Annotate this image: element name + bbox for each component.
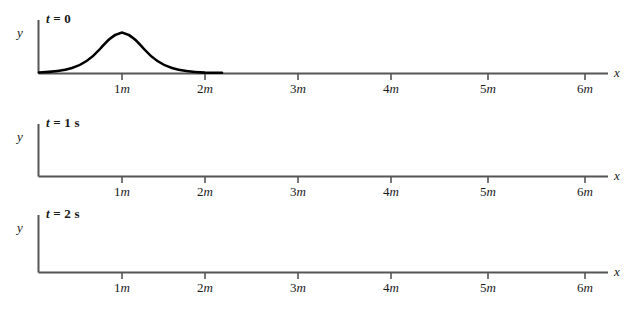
chart-panel-t0: t = 0 y x 1m 2m 3m 4m 5m 6m: [0, 0, 629, 100]
tick-unit: m: [487, 81, 496, 96]
panel-t2-x-axis-label: x: [614, 265, 620, 278]
tick-unit: m: [204, 81, 213, 96]
panel-t0-tick-3m: 3m: [290, 82, 306, 95]
panel-t0-tick-1m: 1m: [114, 82, 130, 95]
chart-panel-t1: t = 1 s y x 1m 2m 3m 4m 5m 6m: [0, 100, 629, 200]
panel-t2-tick-3m: 3m: [290, 281, 306, 294]
panel-t0-time-value: = 0: [50, 11, 71, 26]
panel-t0-tick-6m: 6m: [577, 82, 593, 95]
panel-t2-tick-4m: 4m: [383, 281, 399, 294]
panel-t1-plot: [0, 100, 629, 200]
panel-t2-tick-6m: 6m: [577, 281, 593, 294]
panel-t0-plot: [0, 0, 629, 100]
panel-t1-time-label: t = 1 s: [46, 116, 80, 129]
wave-pulse-curve: [39, 33, 222, 73]
panel-t1-x-axis-label: x: [614, 169, 620, 182]
panel-t2-time-value: = 2 s: [50, 206, 80, 221]
panel-t1-y-axis-label: y: [17, 130, 23, 143]
tick-unit: m: [584, 280, 593, 295]
panel-t0-time-label: t = 0: [46, 12, 71, 25]
panel-t2-time-label: t = 2 s: [46, 207, 80, 220]
tick-unit: m: [297, 280, 306, 295]
tick-unit: m: [487, 280, 496, 295]
panel-t0-tick-4m: 4m: [383, 82, 399, 95]
panel-t2-plot: [0, 196, 629, 310]
panel-t1-time-value: = 1 s: [50, 115, 80, 130]
panel-t0-tick-2m: 2m: [197, 82, 213, 95]
panel-t0-y-axis-label: y: [17, 26, 23, 39]
tick-unit: m: [121, 280, 130, 295]
tick-unit: m: [297, 81, 306, 96]
panel-t0-x-axis-label: x: [614, 66, 620, 79]
panel-t2-tick-2m: 2m: [197, 281, 213, 294]
panel-t0-tick-5m: 5m: [480, 82, 496, 95]
tick-unit: m: [584, 81, 593, 96]
panel-t2-y-axis-label: y: [17, 221, 23, 234]
chart-panel-t2: t = 2 s y x 1m 2m 3m 4m 5m 6m: [0, 196, 629, 310]
tick-unit: m: [204, 280, 213, 295]
tick-unit: m: [390, 81, 399, 96]
panel-t2-tick-5m: 5m: [480, 281, 496, 294]
tick-unit: m: [390, 280, 399, 295]
wave-pulse-figure: t = 0 y x 1m 2m 3m 4m 5m 6m: [0, 0, 629, 310]
panel-t2-tick-1m: 1m: [114, 281, 130, 294]
tick-unit: m: [121, 81, 130, 96]
